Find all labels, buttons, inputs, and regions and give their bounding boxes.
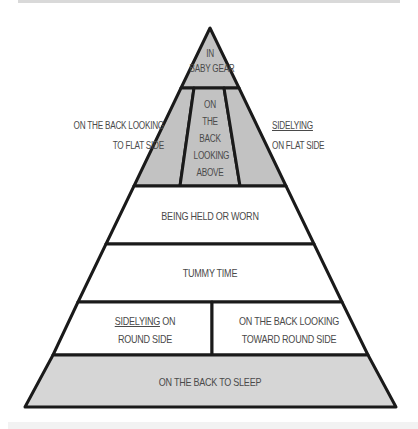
label-line: On the back to sleep: [128, 374, 292, 390]
label-line: Sidelying: [272, 116, 362, 136]
label-sidelying-round-side: Sidelying ON round side: [92, 312, 199, 348]
label-line: In: [190, 46, 231, 61]
label-line: On the back looking: [66, 116, 164, 136]
label-line: On the back looking: [229, 312, 349, 330]
label-line: on flat Side: [272, 136, 362, 156]
label-back-toward-round-side: On the back looking toward round side: [229, 312, 349, 348]
side-label-right: Sidelying on flat Side: [272, 116, 362, 156]
label-line: above: [194, 164, 227, 181]
label-line: Tummy Time: [144, 265, 275, 281]
label-tummy-time: Tummy Time: [144, 265, 275, 281]
bottom-divider: [8, 422, 418, 429]
label-line: Baby Gear: [190, 61, 231, 76]
label-line: Sidelying ON: [92, 312, 199, 330]
label-line: On: [194, 96, 227, 113]
label-line: round side: [92, 330, 199, 348]
label-line: back: [194, 130, 227, 147]
label-line: looking: [194, 147, 227, 164]
label-line: to flat side: [66, 136, 164, 156]
label-line: Being held or worn: [144, 208, 275, 224]
underlined-word: Sidelying: [115, 315, 160, 327]
side-label-left: On the back looking to flat side: [66, 116, 164, 156]
label-back-to-sleep: On the back to sleep: [128, 374, 292, 390]
label-line: toward round side: [229, 330, 349, 348]
label-being-held: Being held or worn: [144, 208, 275, 224]
label-looking-above: On the back looking above: [194, 96, 227, 181]
label-baby-gear: In Baby Gear: [190, 46, 231, 76]
label-line: the: [194, 113, 227, 130]
